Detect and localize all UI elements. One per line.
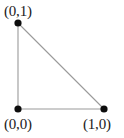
vertex-label-top-left: (0,1) (4, 3, 32, 19)
triangle-edge-hypotenuse (18, 23, 104, 109)
triangle-diagram: (0,1) (0,0) (1,0) (0, 0, 124, 138)
vertex-label-origin: (0,0) (4, 116, 32, 132)
vertex-dot-origin (14, 105, 21, 112)
vertex-label-bottom-right: (1,0) (83, 116, 111, 132)
vertex-dot-top-left (14, 19, 21, 26)
vertex-dot-bottom-right (100, 105, 107, 112)
